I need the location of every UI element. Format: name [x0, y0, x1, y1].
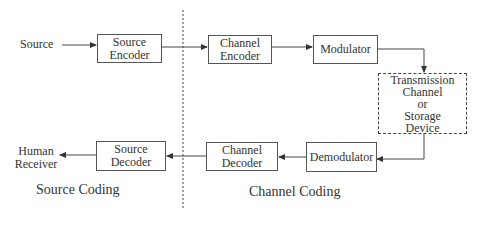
- channel-encoder-block: Channel Encoder: [208, 35, 272, 64]
- block-line: Encoder: [220, 50, 260, 63]
- block-line: Channel: [220, 37, 260, 50]
- receiver-line: Receiver: [14, 158, 58, 171]
- channel-decoder-block: Channel Decoder: [206, 142, 278, 171]
- human-receiver-label: Human Receiver: [14, 145, 58, 171]
- source-coding-label: Source Coding: [36, 182, 120, 198]
- demodulator-block: Demodulator: [306, 142, 377, 172]
- block-line: or: [418, 98, 428, 110]
- channel-coding-label: Channel Coding: [249, 184, 340, 200]
- arrow-mod-to-channel: [378, 49, 424, 72]
- block-line: Channel: [222, 144, 262, 157]
- source-label: Source: [20, 38, 53, 51]
- block-line: Device: [406, 122, 440, 134]
- arrow-channel-to-demod: [377, 134, 424, 159]
- block-line: Modulator: [320, 43, 371, 56]
- block-line: Decoder: [222, 157, 263, 170]
- block-line: Encoder: [110, 49, 150, 62]
- block-line: Decoder: [111, 156, 152, 169]
- block-line: Channel: [403, 86, 443, 98]
- source-decoder-block: Source Decoder: [96, 141, 166, 171]
- block-line: Storage: [404, 110, 441, 122]
- source-encoder-block: Source Encoder: [97, 34, 162, 63]
- block-line: Transmission: [390, 74, 454, 86]
- modulator-block: Modulator: [313, 35, 378, 64]
- block-line: Source: [113, 36, 146, 49]
- transmission-channel-block: Transmission Channel or Storage Device: [378, 73, 467, 134]
- block-line: Demodulator: [310, 151, 373, 164]
